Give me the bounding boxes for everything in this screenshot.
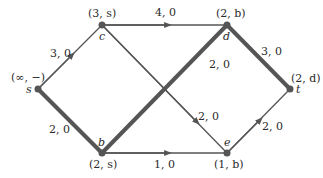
edge-label-c-d: 4, 0	[155, 6, 176, 19]
edge-label-s-b: 2, 0	[49, 123, 70, 136]
node-e	[224, 150, 231, 157]
edge-label-e-t: 2, 0	[262, 120, 283, 133]
node-label-d: (2, b)	[216, 7, 246, 20]
node-t	[287, 86, 294, 93]
node-label-b: (2, s)	[89, 158, 117, 171]
edge-label-d-t: 3, 0	[261, 45, 282, 58]
node-name-e: e	[224, 136, 231, 149]
edge-label-c-e: 2, 0	[198, 110, 219, 123]
edge-label-b-e: 1, 0	[154, 158, 175, 171]
node-name-d: d	[223, 30, 230, 43]
flow-network-diagram: s c d t b e (∞, −) (3, s) (2, b) (2, d) …	[0, 0, 323, 178]
edge-s-b	[38, 89, 102, 153]
node-b	[99, 150, 106, 157]
node-name-c: c	[99, 30, 105, 43]
node-name-b: b	[98, 136, 105, 149]
edge-label-b-d: 2, 0	[209, 58, 230, 71]
node-s	[35, 86, 42, 93]
node-label-e: (1, b)	[214, 158, 244, 171]
node-label-t: (2, d)	[291, 72, 321, 85]
node-d	[224, 22, 231, 29]
edge-label-s-c: 3, 0	[50, 47, 71, 60]
node-label-c: (3, s)	[88, 7, 116, 20]
node-name-s: s	[26, 83, 32, 96]
node-label-s: (∞, −)	[11, 71, 45, 84]
node-c	[99, 22, 106, 29]
